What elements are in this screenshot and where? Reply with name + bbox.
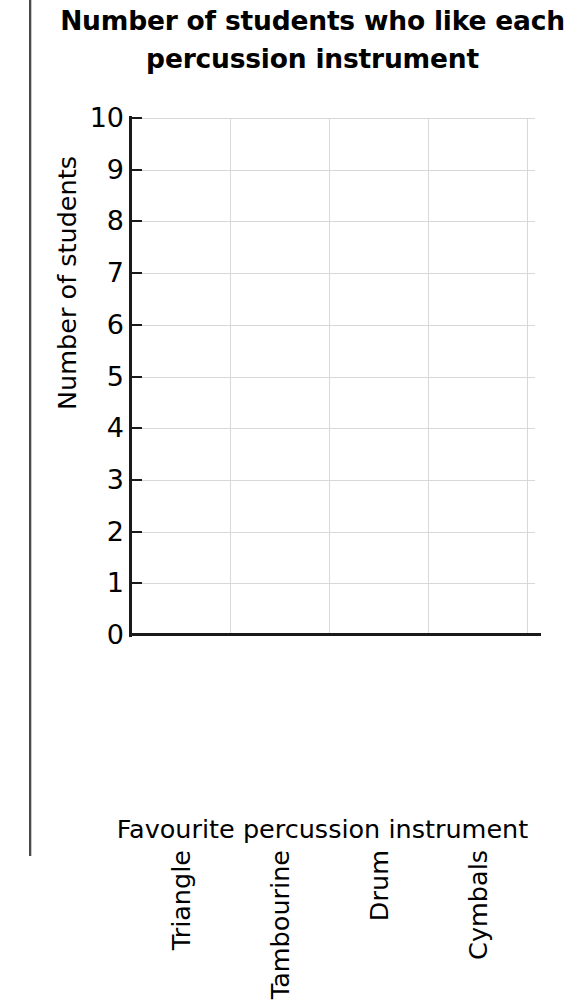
- vertical-gridline: [527, 118, 528, 635]
- y-axis-tick-label: 5: [86, 363, 124, 390]
- horizontal-gridline: [131, 377, 535, 378]
- x-axis-category-label: Drum: [364, 645, 394, 850]
- y-axis-tick: [131, 272, 142, 274]
- category-label-text: Drum: [364, 850, 394, 1004]
- y-axis-tick-label: 9: [86, 156, 124, 183]
- page-edge-shadow: [31, 0, 32, 856]
- horizontal-gridline: [131, 221, 535, 222]
- y-axis-title: Number of students: [54, 160, 80, 410]
- x-axis-category-label: Tambourine: [265, 645, 295, 850]
- y-axis-tick-label: 8: [86, 207, 124, 234]
- y-axis-tick-label: 3: [86, 466, 124, 493]
- y-axis-tick: [131, 376, 142, 378]
- y-axis-tick-label: 4: [86, 414, 124, 441]
- x-axis-title: Favourite percussion instrument: [60, 815, 585, 843]
- x-axis-category-label: Triangle: [166, 645, 196, 850]
- category-label-text: Triangle: [166, 850, 196, 1004]
- y-axis-tick: [131, 479, 142, 481]
- y-axis-tick: [131, 324, 142, 326]
- vertical-gridline: [428, 118, 429, 635]
- y-axis-tick: [131, 427, 142, 429]
- x-axis-category-label: Cymbals: [463, 645, 493, 850]
- y-axis-tick-labels: 109876543210: [86, 0, 124, 856]
- y-axis-tick-label: 10: [86, 104, 124, 131]
- horizontal-gridline: [131, 428, 535, 429]
- y-axis-tick: [131, 582, 142, 584]
- y-axis-tick: [131, 220, 142, 222]
- y-axis-tick-label: 2: [86, 518, 124, 545]
- y-axis-tick: [131, 169, 142, 171]
- plot-area: [131, 118, 527, 635]
- x-axis-line: [129, 633, 541, 636]
- horizontal-gridline: [131, 480, 535, 481]
- y-axis-tick: [131, 531, 142, 533]
- horizontal-gridline: [131, 170, 535, 171]
- y-axis-tick: [131, 117, 142, 119]
- horizontal-gridline: [131, 118, 535, 119]
- category-label-text: Cymbals: [463, 850, 493, 1004]
- vertical-gridline: [230, 118, 231, 635]
- horizontal-gridline: [131, 532, 535, 533]
- y-axis-tick-label: 1: [86, 569, 124, 596]
- y-axis-tick-label: 7: [86, 259, 124, 286]
- y-axis-tick: [131, 634, 142, 636]
- y-axis-tick-label: 0: [86, 621, 124, 648]
- y-axis-tick-label: 6: [86, 311, 124, 338]
- category-label-text: Tambourine: [265, 850, 295, 1004]
- vertical-gridline: [329, 118, 330, 635]
- horizontal-gridline: [131, 325, 535, 326]
- horizontal-gridline: [131, 583, 535, 584]
- horizontal-gridline: [131, 273, 535, 274]
